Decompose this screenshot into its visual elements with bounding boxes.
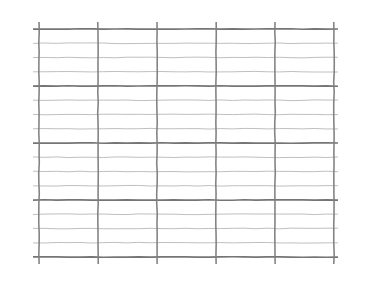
- gridline-vertical: [334, 22, 335, 264]
- gridline-horizontal-major: [33, 29, 338, 30]
- gridline-horizontal-major: [33, 200, 338, 201]
- gridline-horizontal-major: [33, 86, 338, 87]
- gridline-vertical: [157, 22, 158, 264]
- grid-canvas: [0, 0, 374, 290]
- gridline-horizontal-major: [33, 257, 338, 258]
- gridline-vertical: [216, 22, 217, 264]
- gridline-vertical: [275, 22, 276, 264]
- gridline-vertical: [98, 22, 99, 264]
- gridline-horizontal-major: [33, 143, 338, 144]
- grid-figure: [0, 0, 374, 290]
- gridline-vertical: [39, 22, 40, 264]
- gridline-horizontal-minor: [33, 114, 338, 115]
- gridline-horizontal-minor: [33, 157, 338, 158]
- gridline-horizontal-minor: [33, 185, 338, 186]
- gridline-horizontal-minor: [33, 71, 338, 72]
